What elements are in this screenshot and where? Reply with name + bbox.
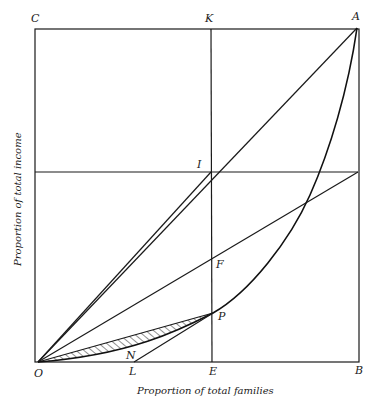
label-B: B xyxy=(354,364,363,377)
label-P: P xyxy=(217,310,226,323)
label-C: C xyxy=(31,12,40,25)
label-F: F xyxy=(215,258,224,271)
label-O: O xyxy=(34,367,43,380)
label-A: A xyxy=(351,10,360,23)
vertical-line-KE xyxy=(211,29,212,362)
label-E: E xyxy=(208,365,217,378)
x-axis-label: Proportion of total families xyxy=(136,385,274,396)
lorenz-diagram: C K A I F P N O L E B Proportion of tota… xyxy=(0,0,378,407)
label-N: N xyxy=(125,349,136,362)
y-axis-label: Proportion of total income xyxy=(12,132,23,267)
label-I: I xyxy=(196,158,202,171)
label-L: L xyxy=(128,365,136,378)
label-K: K xyxy=(204,12,214,25)
line-OI xyxy=(38,172,211,362)
line-O-to-right-mid xyxy=(38,172,358,362)
